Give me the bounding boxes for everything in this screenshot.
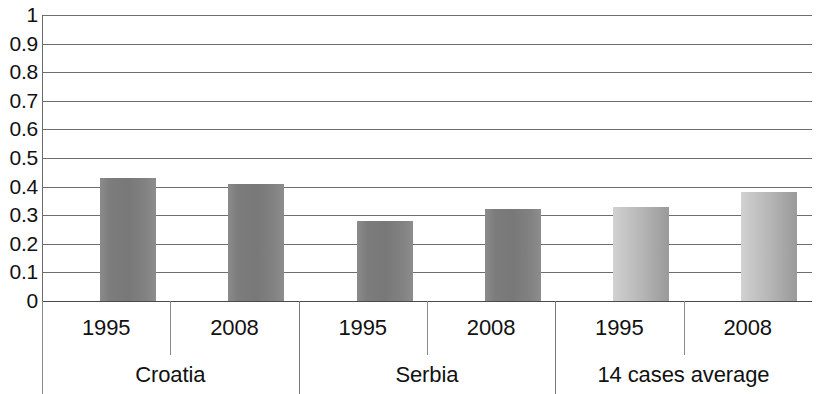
- bar-14-cases-average-1995: [613, 207, 669, 301]
- y-axis-tick-label: 0.8: [0, 61, 38, 82]
- y-axis-tick-labels: 1 0.9 0.8 0.7 0.6 0.5 0.4 0.3 0.2 0.1 0: [0, 0, 38, 302]
- x-axis-group-label: 14 cases average: [555, 355, 812, 394]
- x-axis-group-label: Croatia: [42, 355, 299, 394]
- bar-serbia-2008: [485, 209, 541, 301]
- y-axis-tick-label: 0.9: [0, 33, 38, 54]
- x-axis-year-label: 1995: [555, 301, 683, 355]
- x-axis-year-label: 2008: [427, 301, 555, 355]
- y-axis-tick-label: 0.3: [0, 204, 38, 225]
- year-cell-divider: [170, 301, 171, 355]
- x-axis-label-table: 1995 2008 1995 2008 1995 2008 Croatia Se…: [42, 301, 812, 394]
- group-label-row: Croatia Serbia 14 cases average: [42, 355, 812, 394]
- y-axis-tick-label: 0.1: [0, 261, 38, 282]
- bar-14-cases-average-2008: [741, 192, 797, 301]
- bar-croatia-2008: [228, 184, 284, 301]
- y-axis-tick-label: 0.7: [0, 90, 38, 111]
- y-axis-tick-label: 1: [0, 4, 38, 25]
- year-cell-divider: [427, 301, 428, 355]
- x-axis-group-label: Serbia: [299, 355, 556, 394]
- x-axis-year-label: 1995: [42, 301, 170, 355]
- y-axis-tick-label: 0.4: [0, 176, 38, 197]
- y-axis-tick-label: 0.5: [0, 147, 38, 168]
- y-axis-tick-label: 0: [0, 290, 38, 311]
- group-divider: [555, 301, 556, 394]
- x-axis-year-label: 2008: [170, 301, 298, 355]
- bar-chart: 1 0.9 0.8 0.7 0.6 0.5 0.4 0.3 0.2 0.1 0: [0, 0, 829, 394]
- y-axis-tick-label: 0.2: [0, 233, 38, 254]
- y-axis-tick-label: 0.6: [0, 118, 38, 139]
- year-cell-divider: [684, 301, 685, 355]
- year-label-row: 1995 2008 1995 2008 1995 2008: [42, 301, 812, 355]
- x-axis-year-label: 2008: [684, 301, 812, 355]
- group-divider: [299, 301, 300, 394]
- bars-layer: [42, 15, 812, 301]
- bar-croatia-1995: [100, 178, 156, 301]
- bar-serbia-1995: [357, 221, 413, 301]
- x-axis-year-label: 1995: [299, 301, 427, 355]
